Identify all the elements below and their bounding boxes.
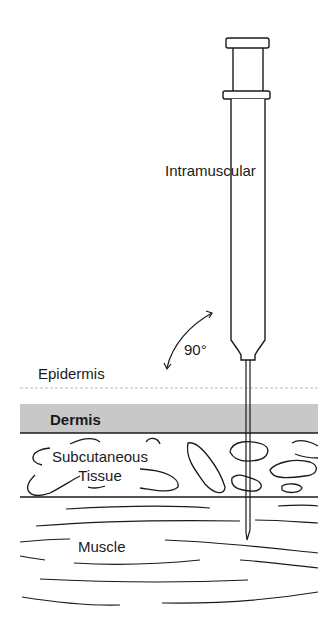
syringe-flange [223,91,270,99]
epidermis-label: Epidermis [38,365,105,382]
syringe [223,38,270,360]
angle-arc [164,311,212,369]
syringe-barrel [231,99,265,360]
angle-label: 90° [184,341,207,358]
needle [246,360,250,540]
subcutaneous-label-line1: Subcutaneous [52,447,148,466]
dermis-label: Dermis [50,411,101,428]
subcutaneous-label: Subcutaneous Tissue [52,447,148,485]
muscle-fibers [20,505,318,605]
subcutaneous-label-line2: Tissue [52,466,148,485]
plunger-cap [226,38,269,48]
intramuscular-label: Intramuscular [165,162,256,179]
diagram-canvas [0,0,334,622]
muscle-label: Muscle [78,538,126,555]
